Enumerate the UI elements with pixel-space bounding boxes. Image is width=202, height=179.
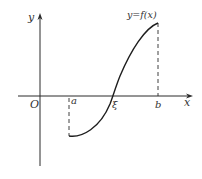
point-b-label: b bbox=[155, 99, 161, 110]
origin-label: O bbox=[30, 98, 39, 111]
point-a-label: a bbox=[71, 95, 77, 106]
y-axis-label: y bbox=[27, 11, 35, 24]
curve-f bbox=[69, 23, 158, 136]
function-graph: y x O a ξ b y=f(x) bbox=[0, 0, 202, 179]
x-axis-label: x bbox=[184, 96, 191, 109]
curve-label: y=f(x) bbox=[126, 9, 157, 20]
point-xi-label: ξ bbox=[112, 99, 118, 110]
